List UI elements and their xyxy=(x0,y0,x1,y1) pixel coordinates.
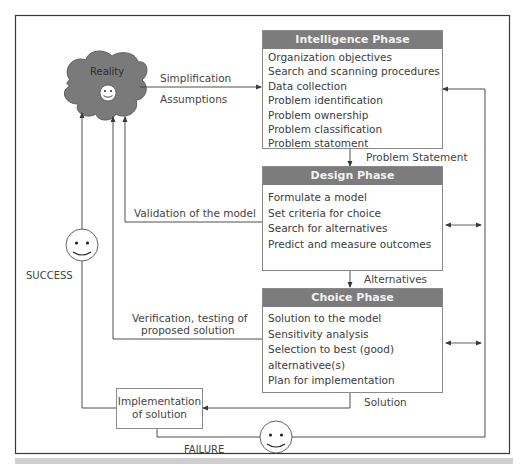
verification-label-line2: proposed solution xyxy=(141,325,235,336)
design-item: Predict and measure outcomes xyxy=(268,237,437,253)
success-smiley-icon xyxy=(66,229,98,261)
success-label: SUCCESS xyxy=(26,271,73,281)
choice-item: Plan for implementation xyxy=(268,373,437,389)
intelligence-phase-header: Intelligence Phase xyxy=(263,31,442,49)
failure-smiley-icon xyxy=(260,421,292,453)
choice-item: Selection to best (good) xyxy=(268,342,437,358)
reality-label: Reality xyxy=(90,67,124,77)
design-item: Set criteria for choice xyxy=(268,206,437,222)
intelligence-item: Problem classification xyxy=(268,122,437,136)
intelligence-item: Problem statoment xyxy=(268,136,437,150)
verification-label-line1: Verification, testing of xyxy=(132,313,248,324)
bottom-rule xyxy=(15,458,513,464)
implementation-box: Implementation of solution xyxy=(116,388,203,429)
intelligence-item: Search and scanning procedures xyxy=(268,64,437,78)
assumptions-label: Assumptions xyxy=(160,94,227,105)
validation-label: Validation of the model xyxy=(134,208,256,219)
intelligence-item: Data collection xyxy=(268,79,437,93)
intelligence-item: Organization objectives xyxy=(268,50,437,64)
design-phase-box: Design Phase Formulate a model Set crite… xyxy=(262,166,443,271)
choice-phase-box: Choice Phase Solution to the model Sensi… xyxy=(262,288,443,393)
problem-statement-label: Problem Statement xyxy=(366,152,468,163)
simplification-label: Simplification xyxy=(160,73,231,84)
choice-item: Solution to the model xyxy=(268,311,437,327)
choice-phase-header: Choice Phase xyxy=(263,289,442,307)
implementation-line1: Implementation xyxy=(117,395,202,408)
failure-label: FAILURE xyxy=(184,445,224,455)
intelligence-phase-box: Intelligence Phase Organization objectiv… xyxy=(262,30,443,149)
design-item: Formulate a model xyxy=(268,190,437,206)
design-item: Search for alternatives xyxy=(268,221,437,237)
choice-item: Sensitivity analysis xyxy=(268,327,437,343)
solution-label: Solution xyxy=(364,397,407,408)
reality-smiley-icon xyxy=(100,85,116,101)
implementation-line2: of solution xyxy=(117,408,202,421)
intelligence-item: Problem identification xyxy=(268,93,437,107)
design-phase-header: Design Phase xyxy=(263,167,442,185)
solution-arrow xyxy=(203,392,350,408)
choice-item: alternativee(s) xyxy=(268,358,437,374)
verification-arrow xyxy=(113,117,262,339)
intelligence-item: Problem ownership xyxy=(268,108,437,122)
alternatives-label: Alternatives xyxy=(364,274,427,285)
